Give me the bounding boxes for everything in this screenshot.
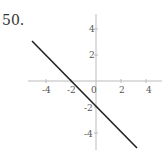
line-chart: -4 -2 0 2 4 4 2 -2 -4 (0, 0, 162, 153)
svg-text:0: 0 (91, 85, 97, 95)
svg-text:-4: -4 (42, 85, 51, 95)
svg-text:-2: -2 (67, 85, 76, 95)
svg-text:2: 2 (89, 50, 95, 60)
svg-text:4: 4 (146, 85, 152, 95)
x-tick-labels: -4 -2 0 2 4 (42, 85, 152, 95)
svg-text:-4: -4 (84, 129, 93, 139)
svg-text:-2: -2 (84, 103, 93, 113)
svg-text:2: 2 (119, 85, 125, 95)
